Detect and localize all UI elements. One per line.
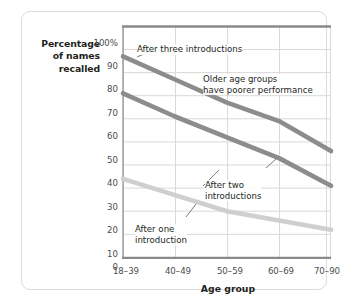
annotation-older-line-2: have poorer performance: [203, 85, 313, 95]
annotation-after-three-introductions: After three introductions: [137, 44, 242, 55]
annotation-after-two-introductions: After twointroductions: [205, 180, 261, 201]
annotation-three-line-1: After three introductions: [137, 44, 242, 54]
annotation-one-line-2: introduction: [135, 235, 187, 245]
annotation-after-one-introduction: After oneintroduction: [135, 224, 187, 245]
annotation-older-age-groups: Older age groupshave poorer performance: [203, 74, 313, 95]
annotation-older-line-1: Older age groups: [203, 74, 277, 84]
annotation-one-line-1: After one: [135, 224, 174, 234]
annotation-two-line-2: introductions: [205, 191, 261, 201]
chart-figure: Percentageof namesrecalled 100% 90 80 70…: [0, 0, 350, 302]
annotation-two-line-1: After two: [205, 180, 244, 190]
